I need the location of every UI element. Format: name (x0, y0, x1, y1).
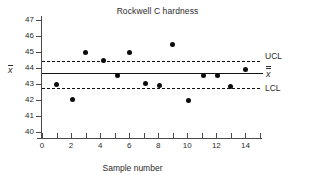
x-axis-tick (231, 133, 232, 138)
x-axis-tick (71, 133, 72, 138)
y-axis-tick (36, 36, 41, 37)
x-axis-tick (187, 133, 188, 138)
x-axis-tick (216, 133, 217, 138)
x-axis-tick (173, 133, 174, 138)
x-axis-tick (245, 133, 246, 138)
y-axis-tick-label: 41 (22, 112, 34, 120)
y-axis-tick-label: 47 (22, 16, 34, 24)
y-axis-tick-label: 40 (22, 128, 34, 136)
x-axis-tick-label: 10 (179, 142, 195, 150)
x-axis-tick-label: 4 (92, 142, 108, 150)
data-point (143, 81, 148, 86)
data-point (83, 50, 88, 55)
y-axis-tick (36, 20, 41, 21)
x-axis-tick (260, 133, 261, 138)
x-axis-tick-label: 2 (63, 142, 79, 150)
y-axis-label-xbar: x (8, 66, 13, 75)
center-line-label: x (266, 70, 271, 79)
overbar-icon (8, 65, 13, 66)
lcl-line (42, 88, 260, 89)
x-double-bar-symbol: x (266, 70, 271, 79)
x-axis-tick (158, 133, 159, 138)
x-axis-tick (57, 133, 58, 138)
data-point (54, 82, 59, 87)
x-axis-tick (86, 133, 87, 138)
chart-title: Rockwell C hardness (100, 6, 215, 16)
y-axis-tick (36, 84, 41, 85)
control-chart: Rockwell C hardness x 4746454443424140 0… (0, 0, 311, 179)
x-axis-tick-label: 6 (121, 142, 137, 150)
data-point (201, 73, 206, 78)
y-axis-line (41, 16, 42, 138)
data-point (70, 97, 75, 102)
x-axis-tick-label: 12 (208, 142, 224, 150)
data-point (186, 98, 191, 103)
ucl-label: UCL (265, 52, 282, 61)
x-axis-tick-label: 8 (150, 142, 166, 150)
x-axis-tick (115, 133, 116, 138)
y-axis-tick-label: 43 (22, 80, 34, 88)
y-axis-tick-label: 44 (22, 64, 34, 72)
x-axis-title: Sample number (0, 163, 265, 173)
x-axis-tick-label: 14 (237, 142, 253, 150)
overbar-icon-outer (266, 66, 271, 67)
y-axis-tick-label: 45 (22, 48, 34, 56)
overbar-icon-inner (266, 68, 271, 69)
y-axis-tick (36, 132, 41, 133)
y-axis-tick (36, 68, 41, 69)
x-axis-tick (144, 133, 145, 138)
data-point (115, 73, 120, 78)
lcl-label: LCL (265, 84, 281, 93)
y-axis-tick-label: 42 (22, 96, 34, 104)
x-axis-tick-label: 0 (34, 142, 50, 150)
data-point (170, 42, 175, 47)
x-axis-tick (129, 133, 130, 138)
y-axis-tick (36, 100, 41, 101)
y-axis-tick (36, 52, 41, 53)
data-point (101, 58, 106, 63)
data-point (215, 73, 220, 78)
x-axis-tick (202, 133, 203, 138)
x-axis-tick (42, 133, 43, 138)
data-point (127, 50, 132, 55)
x-axis-line (37, 138, 262, 139)
x-axis-tick (100, 133, 101, 138)
y-axis-label: x (8, 66, 13, 75)
y-axis-tick-label: 46 (22, 32, 34, 40)
center-line (42, 73, 263, 74)
data-point (243, 67, 248, 72)
y-axis-tick (36, 116, 41, 117)
ucl-line (42, 61, 260, 62)
